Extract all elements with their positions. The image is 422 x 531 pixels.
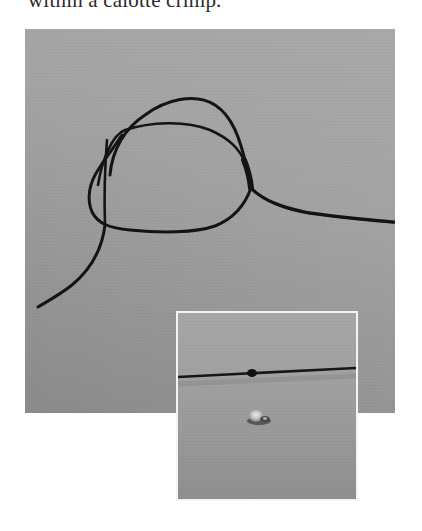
caption-text: within a calotte crimp. [28,0,222,13]
inset-photo-calotte-crimp [176,311,358,501]
inset-knot [247,369,257,377]
cord-outer-arc [110,98,246,175]
inset-drawing [178,313,356,499]
calotte-crimp-icon [247,410,271,425]
